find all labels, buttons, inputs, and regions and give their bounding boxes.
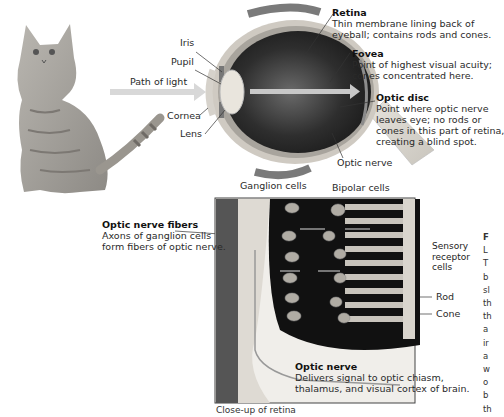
label-ganglion-cells: Ganglion cells xyxy=(240,180,307,191)
fovea-title: Fovea xyxy=(352,48,492,59)
callout-retina: Retina Thin membrane lining back of eyeb… xyxy=(332,7,491,40)
label-optic-nerve: Optic nerve xyxy=(337,157,392,168)
figure-caption: Close-up of retina xyxy=(216,405,296,415)
callout-optic-nerve-closeup: Optic nerve Delivers signal to optic chi… xyxy=(295,361,470,394)
label-iris: Iris xyxy=(180,37,194,48)
label-path-of-light: Path of light xyxy=(130,76,187,87)
callout-optic-nerve-fibers: Optic nerve fibers Axons of ganglion cel… xyxy=(102,219,226,252)
callout-fovea: Fovea Point of highest visual acuity; co… xyxy=(352,48,492,81)
side-column-text: F L T b sl th th a ir a w o b th xyxy=(483,231,492,416)
label-sensory-receptor-cells: Sensory receptor cells xyxy=(432,241,470,273)
label-cone: Cone xyxy=(436,308,460,319)
label-lens: Lens xyxy=(180,128,202,139)
label-rod: Rod xyxy=(436,291,454,302)
retina-title: Retina xyxy=(332,7,491,18)
optic-disc-title: Optic disc xyxy=(376,92,504,103)
label-bipolar-cells: Bipolar cells xyxy=(332,182,390,193)
callout-optic-disc: Optic disc Point where optic nerve leave… xyxy=(376,92,504,147)
label-pupil: Pupil xyxy=(171,56,194,67)
label-cornea: Cornea xyxy=(167,110,201,121)
cat-illustration xyxy=(17,24,160,193)
